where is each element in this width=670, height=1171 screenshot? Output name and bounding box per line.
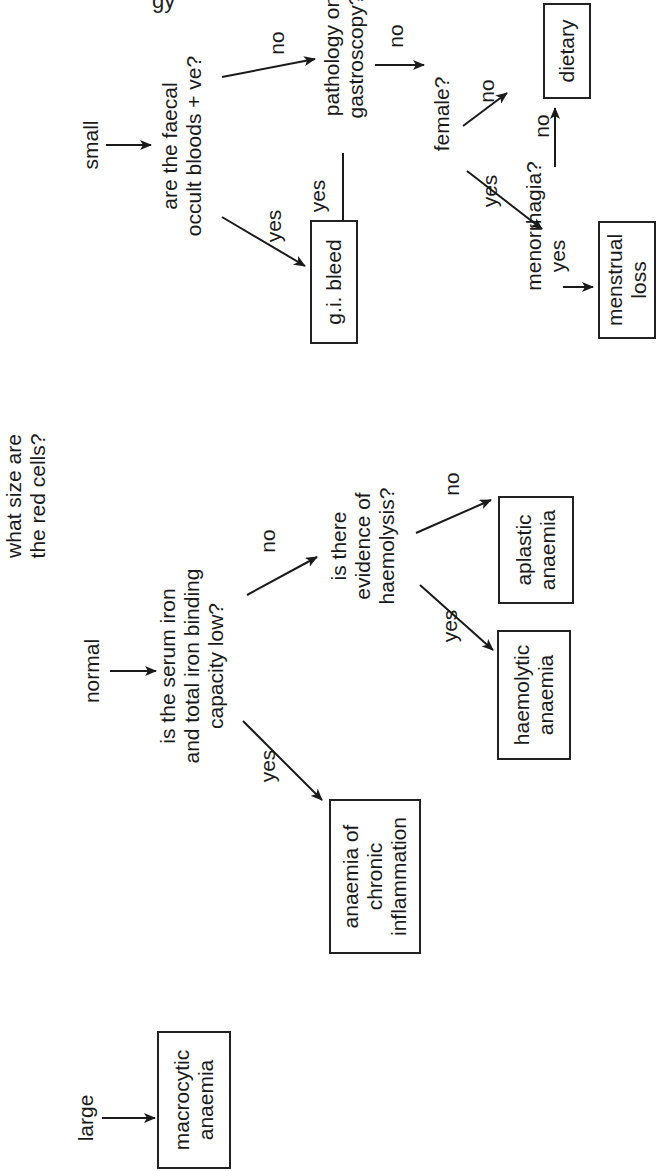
edge-label-haemolysis-no: no [440, 469, 464, 499]
outcome-macrocytic-anaemia: macrocytic anaemia [157, 1031, 231, 1169]
outcome-gi-bleed: g.i. bleed [310, 220, 358, 344]
question-haemolysis-line-1: is there [327, 476, 351, 616]
outcome-chronic-line-3: inflammation [387, 817, 411, 936]
question-haemolysis: is there evidence of haemolysis? [327, 476, 399, 616]
question-haemolysis-line-3: haemolysis? [375, 476, 399, 616]
outcome-chronic-line-1: anaemia of [339, 817, 363, 936]
edge-label-serum-no: no [256, 526, 280, 556]
edge-label-faecal-yes: yes [262, 206, 286, 246]
question-serum-iron: is the serum iron and total iron binding… [156, 551, 228, 781]
edge-label-female-yes: yes [478, 171, 502, 211]
outcome-aplastic-line-2: anaemia [536, 510, 560, 591]
flowchart-canvas: what size are the red cells? large macro… [0, 0, 670, 1171]
outcome-dietary: dietary [543, 3, 591, 99]
question-female: female? [430, 69, 454, 159]
outcome-aplastic-line-1: aplastic [512, 510, 536, 591]
outcome-macrocytic-line-2: anaemia [194, 1050, 218, 1150]
question-haemolysis-line-2: evidence of [351, 476, 375, 616]
arrow-haemolysis-no [416, 500, 491, 533]
question-menorrhagia: menorrhagia? [522, 156, 546, 296]
question-serum-iron-line-3: capacity low? [204, 551, 228, 781]
edge-label-serum-yes: yes [256, 746, 280, 786]
outcome-haemolytic-line-1: haemolytic [510, 645, 534, 745]
edge-label-menorrhagia-yes: yes [546, 236, 570, 276]
edge-label-gastroscopy-yes: yes [306, 176, 330, 216]
arrow-faecal-no [222, 59, 315, 77]
question-serum-iron-line-2: and total iron binding [180, 551, 204, 781]
question-gastroscopy: pathology on gastroscopy? [320, 0, 368, 131]
edge-label-haemolysis-yes: yes [438, 606, 462, 646]
question-faecal-line-1: are the faecal [158, 41, 182, 251]
root-question: what size are the red cells? [2, 406, 50, 586]
root-question-line-2: the red cells? [26, 406, 50, 586]
question-gastroscopy-line-1: pathology on [320, 0, 344, 131]
arrow-serum-no [247, 557, 317, 595]
outcome-macrocytic-line-1: macrocytic [170, 1050, 194, 1150]
edge-label-gastroscopy-no: no [384, 21, 408, 51]
outcome-gi-bleed-line-1: g.i. bleed [322, 239, 346, 324]
outcome-haemolytic-anaemia: haemolytic anaemia [497, 630, 571, 760]
question-faecal-occult-bloods: are the faecal occult bloods + ve? [158, 41, 206, 251]
branch-label-normal: normal [80, 631, 104, 711]
branch-label-large: large [74, 1093, 98, 1143]
outcome-menstrual-loss: menstrual loss [598, 221, 656, 339]
question-gastroscopy-line-2: gastroscopy? [344, 0, 368, 131]
edge-label-faecal-no: no [265, 28, 289, 58]
branch-label-small: small [79, 115, 103, 175]
outcome-anaemia-of-chronic-inflammation: anaemia of chronic inflammation [329, 799, 421, 954]
question-faecal-line-2: occult bloods + ve? [182, 41, 206, 251]
question-serum-iron-line-1: is the serum iron [156, 551, 180, 781]
root-question-line-1: what size are [2, 406, 26, 586]
edge-label-menorrhagia-no: no [530, 111, 554, 141]
outcome-menstrual-line-2: loss [627, 234, 651, 326]
outcome-haemolytic-line-2: anaemia [534, 645, 558, 745]
edge-label-female-no: no [475, 76, 499, 106]
outcome-dietary-line-1: dietary [555, 19, 579, 82]
outcome-chronic-line-2: chronic [363, 817, 387, 936]
arrow-serum-yes [243, 721, 322, 800]
outcome-aplastic-anaemia: aplastic anaemia [498, 496, 574, 604]
outcome-menstrual-line-1: menstrual [603, 234, 627, 326]
